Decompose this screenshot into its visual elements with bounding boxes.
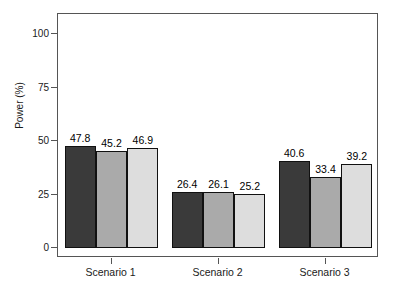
x-tick-label: Scenario 1	[56, 266, 166, 278]
x-tick-mark	[218, 258, 219, 264]
x-tick-label: Scenario 2	[163, 266, 273, 278]
x-tick-label: Scenario 3	[270, 266, 380, 278]
plot-area: 47.845.246.926.426.125.240.633.439.2	[57, 13, 378, 257]
bar	[65, 146, 96, 248]
x-tick-mark	[111, 258, 112, 264]
y-tick-label: 100	[19, 28, 49, 39]
y-tick-label: 25	[19, 188, 49, 199]
bar-value-label: 33.4	[306, 163, 346, 175]
bar	[96, 151, 127, 248]
bar	[234, 194, 265, 248]
y-tick-label: 0	[19, 242, 49, 253]
bar	[172, 192, 203, 248]
y-axis-title: Power (%)	[14, 46, 25, 166]
y-tick-label: 50	[19, 135, 49, 146]
bar	[310, 177, 341, 248]
bar-value-label: 39.2	[337, 150, 377, 162]
bar	[203, 192, 234, 248]
y-tick-label: 75	[19, 81, 49, 92]
bar-value-label: 25.2	[230, 180, 270, 192]
bar-value-label: 46.9	[123, 134, 163, 146]
bar-chart-figure: Power (%) 0255075100 Scenario 1Scenario …	[0, 0, 393, 290]
x-tick-mark	[325, 258, 326, 264]
bar	[341, 164, 372, 248]
bar	[127, 148, 158, 248]
bar-value-label: 40.6	[274, 147, 314, 159]
